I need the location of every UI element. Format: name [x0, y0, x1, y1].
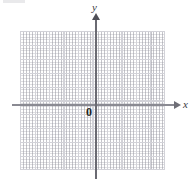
coordinate-plane-figure: x y 0: [0, 0, 195, 179]
major-grid-right-edge: [164, 31, 165, 170]
y-axis-label: y: [92, 2, 97, 13]
y-axis-line: [95, 20, 97, 179]
origin-label: 0: [86, 106, 92, 118]
top-edge-artifact: [3, 0, 25, 3]
y-axis-arrow-icon: [92, 13, 100, 20]
x-axis-arrow-icon: [174, 101, 181, 109]
x-axis-label: x: [183, 99, 188, 110]
x-axis-line: [12, 104, 176, 106]
major-grid-bottom-edge: [20, 169, 165, 170]
minor-grid: [20, 31, 165, 170]
